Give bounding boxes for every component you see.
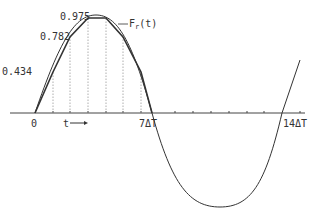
curve-label: Fr(t) <box>129 18 157 31</box>
half-period-label: 7ΔT <box>139 118 157 129</box>
time-arrow-head <box>84 121 88 125</box>
sample-label-0975: 0.975 <box>60 11 90 22</box>
full-period-label: 14ΔT <box>283 118 307 129</box>
sine-curve <box>35 15 300 207</box>
sample-label-0434: 0.434 <box>2 66 32 77</box>
time-axis-label: t <box>63 118 69 129</box>
origin-label: 0 <box>31 118 37 129</box>
sine-sampling-diagram: 0.434 0.782 0.975 Fr(t) 0 t 7ΔT 14ΔT <box>0 0 317 219</box>
sample-label-0782: 0.782 <box>40 31 70 42</box>
